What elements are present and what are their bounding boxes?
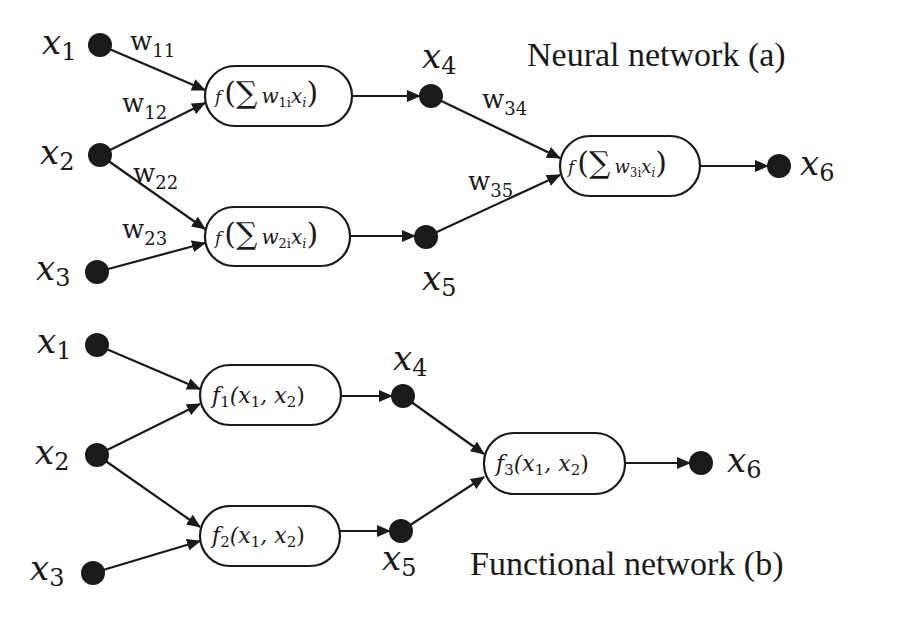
node-x4 — [419, 84, 443, 108]
weight-w34: w34 — [482, 84, 527, 119]
node-x3 — [81, 561, 105, 585]
node-x2 — [85, 443, 109, 467]
node-x2 — [88, 143, 112, 167]
weight-w12: w12 — [122, 88, 167, 123]
weight-w35: w35 — [468, 166, 513, 201]
label-x2: x2 — [40, 132, 74, 176]
label-x5: x5 — [422, 258, 456, 302]
label-x3: x3 — [36, 248, 70, 292]
node-x1 — [85, 333, 109, 357]
panel-functional-network: f1(x1, x2) f2(x1, x2) f3(x1, x2) x1 x2 x… — [30, 321, 784, 592]
node-x5 — [414, 225, 438, 249]
edge-x1-f1 — [97, 345, 200, 389]
panel-b-title: Functional network (b) — [470, 545, 784, 583]
label-x1: x1 — [42, 22, 76, 66]
node-x3 — [85, 260, 109, 284]
weight-w23: w23 — [122, 214, 167, 249]
node-x6 — [767, 154, 791, 178]
network-diagram: f(∑w1ixi) f(∑w2ixi) f(∑w3ixi) x1 x2 x3 x… — [0, 0, 899, 619]
label-x6: x6 — [727, 440, 761, 484]
label-x5: x5 — [382, 538, 416, 582]
weight-w11: w11 — [130, 26, 175, 61]
node-x4 — [391, 384, 415, 408]
edge-x2-f1 — [97, 404, 200, 455]
label-x1: x1 — [37, 321, 71, 365]
node-x1 — [88, 33, 112, 57]
edge-x2-f2 — [97, 455, 200, 527]
edge-x3-f2 — [93, 541, 200, 573]
panel-a-title: Neural network (a) — [527, 36, 786, 74]
label-x2: x2 — [35, 432, 69, 476]
label-x4: x4 — [422, 36, 456, 80]
label-x4: x4 — [393, 338, 427, 382]
label-x6: x6 — [800, 143, 834, 187]
label-x3: x3 — [30, 548, 64, 592]
weight-w22: w22 — [133, 158, 178, 193]
panel-neural-network: f(∑w1ixi) f(∑w2ixi) f(∑w3ixi) x1 x2 x3 x… — [36, 22, 834, 302]
edge-x5-f3 — [401, 477, 484, 531]
edge-x4-f3 — [403, 396, 484, 454]
node-x6 — [689, 451, 713, 475]
